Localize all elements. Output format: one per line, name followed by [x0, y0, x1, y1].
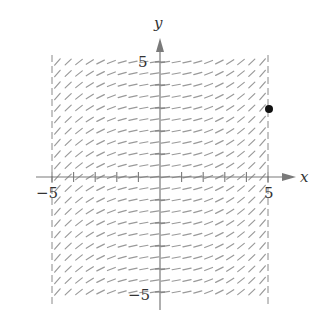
slope-segment	[65, 117, 71, 123]
slope-segment	[183, 188, 191, 190]
slope-segment	[194, 279, 202, 281]
slope-segment	[260, 82, 265, 88]
slope-segment	[216, 279, 224, 283]
slope-segment	[161, 165, 169, 166]
initial-condition-points	[265, 105, 273, 113]
slope-segment	[140, 119, 148, 121]
slope-segment	[150, 280, 158, 281]
slope-segment	[97, 72, 105, 76]
slope-segment	[86, 278, 93, 282]
slope-segment	[183, 245, 191, 247]
slope-segment	[55, 162, 60, 168]
slope-segment	[172, 130, 180, 132]
slope-segment	[55, 277, 60, 283]
slope-segment	[216, 129, 224, 133]
slope-segment	[118, 256, 126, 258]
slope-segment	[205, 164, 213, 167]
slope-segment	[140, 188, 148, 190]
slope-segment	[161, 73, 169, 74]
slope-segment	[216, 152, 224, 156]
slope-segment	[140, 257, 148, 259]
slope-segment	[205, 244, 213, 247]
slope-segment	[55, 59, 60, 65]
slope-segment	[97, 221, 105, 225]
slope-segment	[97, 210, 105, 214]
slope-segment	[107, 233, 115, 236]
slope-segment	[86, 163, 93, 167]
slope-segment	[194, 118, 202, 120]
y-tick-label-max: 5	[138, 53, 148, 71]
x-axis-label: x	[300, 168, 309, 186]
slope-segment	[76, 105, 83, 110]
slope-segment	[76, 140, 83, 145]
slope-segment	[55, 105, 60, 111]
y-axis-label: y	[153, 14, 163, 32]
slope-segment	[76, 197, 83, 202]
slope-segment	[205, 210, 213, 213]
slope-segment	[118, 199, 126, 201]
slope-segment	[140, 153, 148, 155]
slope-segment	[97, 290, 105, 294]
slope-segment	[150, 96, 158, 97]
slope-segment	[86, 244, 93, 248]
slope-segment	[65, 289, 71, 295]
slope-segment	[76, 266, 83, 271]
slope-segment	[118, 118, 126, 120]
slope-segment	[86, 198, 93, 202]
slope-segment	[172, 165, 180, 167]
slope-segment	[172, 280, 180, 282]
slope-segment	[97, 129, 105, 133]
slope-segment	[249, 220, 255, 226]
slope-segment	[118, 107, 126, 109]
slope-segment	[260, 93, 265, 99]
slope-segment	[150, 119, 158, 120]
slope-segment	[118, 95, 126, 97]
slope-segment	[97, 106, 105, 110]
slope-segment	[161, 280, 169, 281]
slope-segment	[65, 163, 71, 169]
slope-segment	[107, 83, 115, 86]
slope-segment	[194, 199, 202, 201]
slope-segment	[140, 268, 148, 270]
slope-segment	[260, 277, 265, 283]
slope-segment	[183, 257, 191, 259]
slope-segment	[118, 233, 126, 235]
slope-segment	[86, 221, 93, 225]
slope-segment	[86, 71, 93, 75]
slope-segment	[238, 255, 245, 260]
slope-segment	[97, 83, 105, 87]
slope-segment	[249, 82, 255, 88]
slope-segment	[227, 60, 234, 64]
slope-segment	[238, 82, 245, 87]
slope-segment	[216, 210, 224, 214]
slope-segment	[216, 164, 224, 168]
slope-segment	[140, 211, 148, 213]
slope-segment	[238, 71, 245, 76]
slope-segment	[129, 73, 137, 75]
slope-segment	[238, 243, 245, 248]
slope-segment	[86, 140, 93, 144]
slope-segment	[172, 257, 180, 259]
slope-segment	[76, 117, 83, 122]
slope-segment	[172, 61, 180, 63]
slope-segment	[260, 151, 265, 157]
slope-segment	[227, 290, 234, 294]
slope-segment	[150, 73, 158, 74]
slope-segment	[118, 210, 126, 212]
slope-segment	[227, 117, 234, 121]
slope-segment	[249, 128, 255, 134]
slope-segment	[129, 130, 137, 132]
slope-segment	[55, 254, 60, 260]
slope-segment	[194, 130, 202, 132]
slope-segment	[65, 278, 71, 284]
slope-segment	[194, 164, 202, 166]
slope-segment	[107, 221, 115, 224]
slope-segment	[249, 140, 255, 146]
slope-segment	[260, 116, 265, 122]
slope-segment	[227, 232, 234, 236]
slope-segment	[172, 234, 180, 236]
slope-segment	[238, 278, 245, 283]
slope-segment	[129, 245, 137, 247]
slope-segment	[183, 96, 191, 98]
slope-segment	[260, 208, 265, 214]
